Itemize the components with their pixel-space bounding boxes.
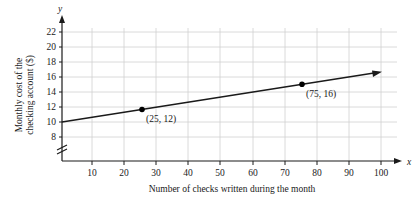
y-axis-title-line1: Monthly cost of the <box>14 58 24 133</box>
data-point-label: (75, 16) <box>306 89 336 100</box>
coordinate-plane-svg: 8 10 12 14 16 18 20 22 10 20 30 40 50 60… <box>0 0 419 204</box>
x-tick-label: 50 <box>215 168 225 178</box>
x-tick-label: 90 <box>344 168 354 178</box>
x-tick-label: 40 <box>183 168 193 178</box>
y-tick-label: 16 <box>47 72 57 82</box>
x-axis-title: Number of checks written during the mont… <box>149 184 316 194</box>
y-tick-label: 14 <box>47 87 57 97</box>
y-tick-label: 20 <box>47 42 57 52</box>
y-axis-title-line2: checking account ($) <box>25 55 36 135</box>
x-tick-label: 30 <box>151 168 161 178</box>
x-tick-labels: 10 20 30 40 50 60 70 80 90 100 <box>87 168 388 178</box>
y-tick-label: 22 <box>47 27 57 37</box>
x-tick-marks <box>92 161 381 165</box>
x-tick-label: 60 <box>248 168 258 178</box>
y-axis-title: Monthly cost of the checking account ($) <box>14 55 36 135</box>
x-tick-label: 10 <box>87 168 97 178</box>
y-tick-label: 10 <box>47 117 57 127</box>
x-tick-label: 20 <box>119 168 129 178</box>
y-tick-label: 18 <box>47 57 57 67</box>
x-tick-label: 80 <box>312 168 322 178</box>
y-axis-variable-label: y <box>57 4 63 14</box>
y-axis <box>59 15 65 161</box>
x-axis <box>62 158 402 164</box>
horizontal-gridlines <box>62 32 397 137</box>
data-point-label: (25, 12) <box>146 114 176 125</box>
graph-figure: 8 10 12 14 16 18 20 22 10 20 30 40 50 60… <box>0 0 419 204</box>
x-axis-variable-label: x <box>406 157 412 167</box>
x-tick-label: 100 <box>374 168 389 178</box>
y-tick-label: 8 <box>51 132 56 142</box>
data-point-marker <box>139 107 145 113</box>
y-tick-label: 12 <box>47 102 57 112</box>
y-tick-labels: 8 10 12 14 16 18 20 22 <box>47 27 57 142</box>
data-point-marker <box>299 82 305 88</box>
x-tick-label: 70 <box>280 168 290 178</box>
